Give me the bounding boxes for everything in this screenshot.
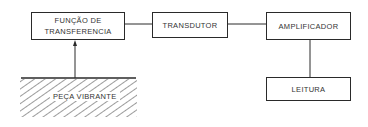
- ground-label-peca-vibrante: PEÇA VIBRANTE: [50, 92, 120, 101]
- block-label: TRANSDUTOR: [163, 20, 218, 31]
- block-label: LEITURA: [292, 84, 326, 95]
- block-label: FUNÇÃO DE TRANSFERENCIA: [44, 15, 111, 37]
- block-funcao-de-transferencia: FUNÇÃO DE TRANSFERENCIA: [31, 12, 125, 40]
- block-leitura: LEITURA: [266, 77, 351, 101]
- block-label: AMPLIFICADOR: [279, 21, 339, 32]
- block-amplificador: AMPLIFICADOR: [266, 12, 351, 40]
- arrowhead-icon: [73, 40, 77, 46]
- block-transdutor: TRANSDUTOR: [152, 12, 228, 38]
